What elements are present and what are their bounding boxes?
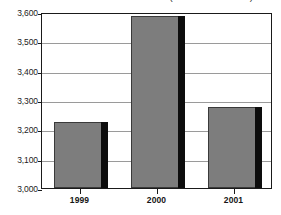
bar-chart-figure: (millions of dollars) 3,0003,1003,2003,3… xyxy=(0,0,281,215)
bar[interactable] xyxy=(131,16,185,188)
y-tick-mark xyxy=(38,73,42,74)
y-tick-label: 3,600 xyxy=(2,9,38,18)
bar[interactable] xyxy=(54,122,108,188)
x-tick-label: 1999 xyxy=(41,195,118,205)
chart-title: (millions of dollars) xyxy=(0,0,281,3)
bar-shadow xyxy=(101,122,108,188)
bar-shadow xyxy=(178,16,185,188)
y-tick-mark xyxy=(38,43,42,44)
y-tick-label: 3,000 xyxy=(2,185,38,194)
y-tick-mark xyxy=(38,14,42,15)
y-axis: 3,0003,1003,2003,3003,4003,5003,600 xyxy=(0,13,38,189)
bar-shadow xyxy=(255,107,262,188)
y-tick-label: 3,500 xyxy=(2,38,38,47)
x-tick-label: 2001 xyxy=(195,195,272,205)
y-tick-label: 3,200 xyxy=(2,126,38,135)
y-tick-mark xyxy=(38,102,42,103)
bar-group xyxy=(54,14,108,188)
x-tick-label: 2000 xyxy=(118,195,195,205)
x-tick-mark xyxy=(80,189,81,194)
y-tick-label: 3,300 xyxy=(2,97,38,106)
y-tick-label: 3,100 xyxy=(2,155,38,164)
x-tick-mark xyxy=(234,189,235,194)
plot-area xyxy=(41,13,272,189)
x-axis-ticks xyxy=(41,189,272,194)
bar-group xyxy=(208,14,262,188)
y-tick-label: 3,400 xyxy=(2,67,38,76)
y-tick-mark xyxy=(38,131,42,132)
bar[interactable] xyxy=(208,107,262,188)
x-axis: 199920002001 xyxy=(41,195,272,209)
y-tick-mark xyxy=(38,161,42,162)
bar-group xyxy=(131,14,185,188)
x-tick-mark xyxy=(157,189,158,194)
